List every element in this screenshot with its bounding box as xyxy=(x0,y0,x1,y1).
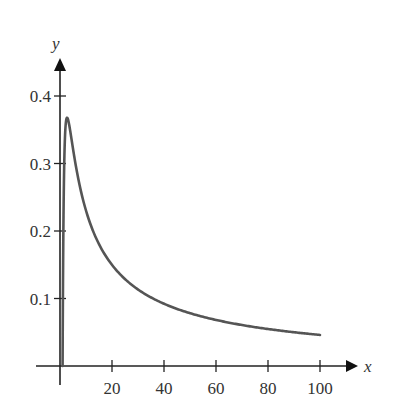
data-curve xyxy=(63,118,320,366)
x-tick-label: 80 xyxy=(260,379,277,398)
axes xyxy=(36,58,358,385)
x-tick-label: 60 xyxy=(208,379,225,398)
x-tick-label: 100 xyxy=(307,379,333,398)
x-axis-label: x xyxy=(363,357,372,376)
chart: 204060801000.10.20.30.4 x y xyxy=(0,0,396,419)
x-tick-label: 20 xyxy=(104,379,121,398)
x-axis-arrow-icon xyxy=(346,360,358,372)
y-tick-label: 0.4 xyxy=(30,87,52,106)
y-tick-label: 0.1 xyxy=(30,290,51,309)
x-tick-label: 40 xyxy=(156,379,173,398)
y-axis-label: y xyxy=(50,34,60,53)
y-tick-label: 0.2 xyxy=(30,222,51,241)
tick-labels: 204060801000.10.20.30.4 xyxy=(30,87,333,398)
y-axis-arrow-icon xyxy=(54,58,66,71)
y-tick-label: 0.3 xyxy=(30,155,51,174)
